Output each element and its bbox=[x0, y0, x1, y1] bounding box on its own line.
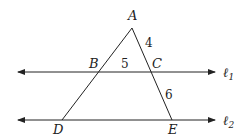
point-label-D: D bbox=[52, 122, 64, 137]
point-label-A: A bbox=[127, 8, 137, 23]
length-label-CE: 6 bbox=[165, 88, 173, 102]
point-label-C: C bbox=[152, 56, 162, 71]
length-label-BC: 5 bbox=[121, 57, 129, 71]
line-label-l1: ℓ1 bbox=[223, 65, 234, 82]
geometry-diagram: A B C D E 4 5 6 ℓ1 ℓ2 bbox=[0, 0, 245, 140]
point-label-B: B bbox=[88, 56, 99, 71]
segment-AD bbox=[62, 28, 132, 120]
line-label-l2: ℓ2 bbox=[223, 113, 234, 130]
length-label-AC: 4 bbox=[145, 36, 153, 50]
point-label-E: E bbox=[167, 122, 178, 137]
